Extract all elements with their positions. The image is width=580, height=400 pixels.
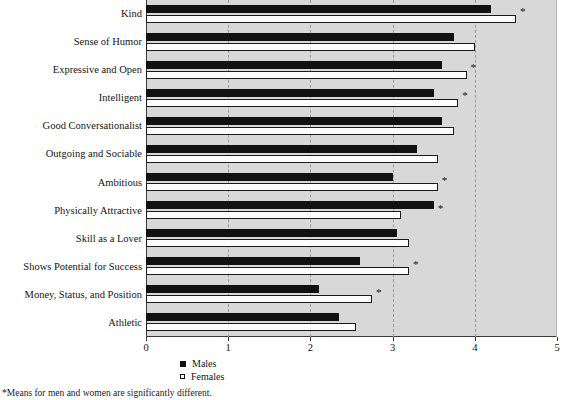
bar-group: * xyxy=(146,169,557,197)
bar-females xyxy=(146,71,467,79)
legend-item-males: Males xyxy=(180,358,224,371)
category-label: Money, Status, and Position xyxy=(0,289,142,300)
bar-group: * xyxy=(146,281,557,309)
legend: Males Females xyxy=(180,358,224,383)
chart-figure: ******* KindSense of HumorExpressive and… xyxy=(0,0,580,400)
bar-females xyxy=(146,43,475,51)
x-tick xyxy=(310,337,311,341)
bar-group xyxy=(146,112,557,140)
bar-group xyxy=(146,309,557,337)
category-label: Sense of Humor xyxy=(0,36,142,47)
category-label: Physically Attractive xyxy=(0,205,142,216)
bar-group: * xyxy=(146,253,557,281)
bar-males xyxy=(146,5,491,13)
category-axis-labels: KindSense of HumorExpressive and OpenInt… xyxy=(0,0,142,337)
category-label: Ambitious xyxy=(0,177,142,188)
bar-males xyxy=(146,145,417,153)
category-label: Kind xyxy=(0,8,142,19)
bar-group: * xyxy=(146,56,557,84)
bar-males xyxy=(146,33,454,41)
x-tick xyxy=(557,337,558,341)
significance-marker: * xyxy=(413,260,419,268)
bar-males xyxy=(146,117,442,125)
bar-group xyxy=(146,140,557,168)
bar-females xyxy=(146,127,454,135)
bar-females xyxy=(146,267,409,275)
x-tick-label: 3 xyxy=(378,342,408,353)
category-label: Athletic xyxy=(0,317,142,328)
bar-group xyxy=(146,225,557,253)
significance-marker: * xyxy=(471,63,477,71)
open-square-icon xyxy=(180,374,185,379)
legend-item-females: Females xyxy=(180,371,224,384)
bar-group xyxy=(146,28,557,56)
significance-marker: * xyxy=(442,176,448,184)
bar-females xyxy=(146,155,438,163)
x-axis: 012345 xyxy=(146,337,557,359)
category-label: Outgoing and Sociable xyxy=(0,148,142,159)
bar-females xyxy=(146,15,516,23)
bar-females xyxy=(146,99,458,107)
legend-label-females: Females xyxy=(191,371,224,384)
footnote: *Means for men and women are significant… xyxy=(2,388,212,399)
x-tick xyxy=(146,337,147,341)
x-tick xyxy=(228,337,229,341)
x-tick-label: 2 xyxy=(295,342,325,353)
bar-females xyxy=(146,211,401,219)
filled-square-icon xyxy=(180,361,186,367)
significance-marker: * xyxy=(520,7,526,15)
bar-females xyxy=(146,323,356,331)
category-label: Intelligent xyxy=(0,92,142,103)
bar-males xyxy=(146,229,397,237)
x-tick-label: 4 xyxy=(460,342,490,353)
category-label: Expressive and Open xyxy=(0,64,142,75)
x-tick xyxy=(475,337,476,341)
bar-males xyxy=(146,173,393,181)
bar-females xyxy=(146,239,409,247)
bar-group: * xyxy=(146,84,557,112)
category-label: Good Conversationalist xyxy=(0,120,142,131)
bar-males xyxy=(146,257,360,265)
significance-marker: * xyxy=(438,204,444,212)
x-tick-label: 0 xyxy=(131,342,161,353)
bar-males xyxy=(146,285,319,293)
category-label: Shows Potential for Success xyxy=(0,261,142,272)
bar-group: * xyxy=(146,197,557,225)
bar-group: * xyxy=(146,0,557,28)
significance-marker: * xyxy=(462,91,468,99)
category-label: Skill as a Lover xyxy=(0,233,142,244)
bar-females xyxy=(146,295,372,303)
x-tick xyxy=(393,337,394,341)
x-tick-label: 1 xyxy=(213,342,243,353)
bar-males xyxy=(146,61,442,69)
bar-males xyxy=(146,201,434,209)
legend-label-males: Males xyxy=(192,358,216,371)
x-tick-label: 5 xyxy=(542,342,572,353)
significance-marker: * xyxy=(376,288,382,296)
bar-males xyxy=(146,313,339,321)
bar-females xyxy=(146,183,438,191)
bar-males xyxy=(146,89,434,97)
